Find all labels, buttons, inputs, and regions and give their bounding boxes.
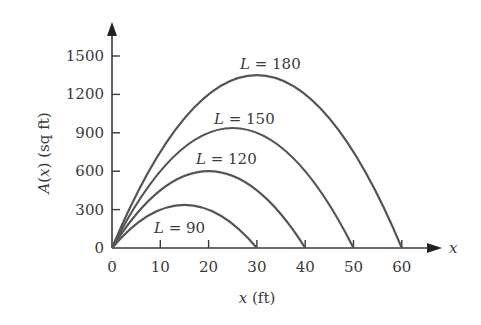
y-tick-600: 600 [75,162,104,180]
x-axis-label: x (ft) [239,289,276,307]
x-axis-name: x [449,239,458,257]
y-tick-300: 300 [75,201,104,219]
y-axis-label: A(x) (sq ft) [35,112,53,195]
y-tick-labels: 0 300 600 900 1200 1500 [66,47,104,257]
x-tick-labels: 0 10 20 30 40 50 60 [107,258,411,276]
x-axis-arrow-icon [427,243,442,253]
x-tick-60: 60 [392,258,411,276]
label-L120: L = 120 [195,150,257,168]
curve-L150 [112,128,354,248]
y-ticks [112,56,120,210]
y-axis-arrow-icon [107,22,117,36]
label-L180: L = 180 [239,55,301,73]
x-tick-30: 30 [247,258,266,276]
x-tick-40: 40 [296,258,315,276]
label-L90: L = 90 [153,219,205,237]
x-tick-10: 10 [151,258,170,276]
y-tick-1500: 1500 [66,47,104,65]
x-tick-50: 50 [344,258,363,276]
x-tick-0: 0 [107,258,117,276]
y-tick-0: 0 [94,239,104,257]
x-tick-20: 20 [199,258,218,276]
label-L150: L = 150 [213,110,275,128]
chart: 0 300 600 900 1200 1500 0 10 20 30 40 50… [0,0,481,325]
y-tick-900: 900 [75,124,104,142]
x-ticks [160,240,401,248]
y-tick-1200: 1200 [66,85,104,103]
